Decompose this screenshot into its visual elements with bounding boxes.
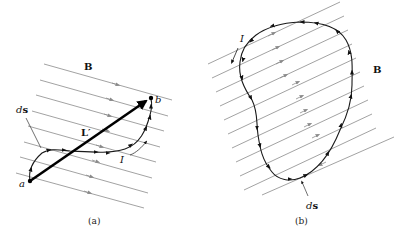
ds-label-a: ds — [16, 104, 28, 115]
current-arrow-a — [130, 142, 146, 155]
field-lines-b — [208, 2, 394, 195]
point-a-label: a — [19, 178, 25, 189]
l-prime-vector — [30, 101, 146, 181]
caption-b: (b) — [295, 216, 308, 226]
field-label-b: B — [373, 64, 381, 75]
panel-b: I B ds (b) — [208, 2, 394, 226]
point-b — [149, 96, 153, 100]
closed-loop-b — [240, 22, 353, 180]
current-label-b: I — [239, 33, 245, 44]
point-b-label: b — [155, 94, 161, 105]
ds-pointer-b — [302, 182, 308, 196]
panel-a: B b a L′ ds I (a) — [16, 61, 172, 226]
field-label-a: B — [84, 61, 92, 72]
figure: B b a L′ ds I (a) — [0, 0, 403, 231]
point-a — [28, 179, 32, 183]
caption-a: (a) — [88, 216, 100, 226]
ds-label-b: ds — [306, 200, 318, 211]
current-arrow-b — [232, 48, 238, 62]
l-prime-label: L′ — [81, 127, 91, 138]
current-label-a: I — [119, 154, 125, 165]
